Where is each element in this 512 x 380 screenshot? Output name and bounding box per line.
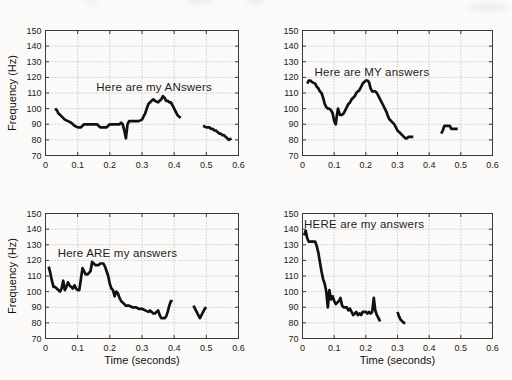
y-tick-label: 150 bbox=[283, 209, 298, 219]
y-tick-label: 120 bbox=[26, 255, 41, 265]
y-tick-label: 80 bbox=[288, 318, 298, 328]
x-axis-label: Time (seconds) bbox=[360, 354, 435, 366]
y-tick-label: 80 bbox=[31, 318, 41, 328]
y-tick-label: 110 bbox=[284, 88, 298, 98]
y-tick-label: 140 bbox=[283, 41, 298, 51]
figure-window: 00.10.20.30.40.50.6708090100110120130140… bbox=[0, 0, 512, 380]
x-tick-label: 0.6 bbox=[486, 160, 499, 170]
x-tick-label: 0 bbox=[300, 343, 305, 353]
y-tick-label: 70 bbox=[31, 334, 41, 344]
contour-segment-2 bbox=[203, 126, 231, 140]
y-tick-label: 100 bbox=[283, 287, 298, 297]
x-tick-label: 0.4 bbox=[168, 343, 181, 353]
subplot-top-right: 00.10.20.30.40.50.6708090100110120130140… bbox=[283, 26, 498, 170]
x-tick-label: 0.4 bbox=[423, 343, 436, 353]
y-tick-label: 90 bbox=[31, 302, 41, 312]
x-tick-label: 0.5 bbox=[200, 343, 213, 353]
y-axis-label: Frequency (Hz) bbox=[6, 238, 18, 314]
annotation-text: Here ARE my answers bbox=[58, 247, 178, 259]
y-tick-label: 140 bbox=[26, 41, 41, 51]
x-tick-label: 0.1 bbox=[71, 160, 84, 170]
annotation-text: Here are MY answers bbox=[315, 66, 430, 78]
annotation-text: HERE are my answers bbox=[304, 218, 424, 230]
x-tick-label: 0.5 bbox=[455, 343, 468, 353]
y-tick-label: 120 bbox=[283, 72, 298, 82]
subplot-bottom-right: 00.10.20.30.40.50.6708090100110120130140… bbox=[283, 209, 498, 366]
pitch-contour-figure: 00.10.20.30.40.50.6708090100110120130140… bbox=[0, 0, 512, 380]
x-tick-label: 0.5 bbox=[200, 160, 213, 170]
x-tick-label: 0.2 bbox=[360, 343, 373, 353]
x-tick-label: 0.3 bbox=[391, 160, 404, 170]
x-tick-label: 0.6 bbox=[232, 160, 245, 170]
y-tick-label: 140 bbox=[283, 224, 298, 234]
y-tick-label: 100 bbox=[283, 104, 298, 114]
y-tick-label: 70 bbox=[288, 334, 298, 344]
y-tick-label: 80 bbox=[31, 135, 41, 145]
x-tick-label: 0.6 bbox=[486, 343, 499, 353]
x-tick-label: 0 bbox=[43, 343, 48, 353]
y-tick-label: 140 bbox=[26, 224, 41, 234]
y-tick-label: 110 bbox=[284, 271, 298, 281]
y-tick-label: 110 bbox=[27, 88, 41, 98]
y-tick-label: 80 bbox=[288, 135, 298, 145]
x-tick-label: 0.1 bbox=[71, 343, 84, 353]
y-tick-label: 100 bbox=[26, 287, 41, 297]
y-tick-label: 90 bbox=[288, 119, 298, 129]
subplot-bottom-left: 00.10.20.30.40.50.6708090100110120130140… bbox=[6, 209, 245, 366]
y-tick-label: 70 bbox=[288, 151, 298, 161]
annotation-text: Here are my ANswers bbox=[96, 81, 212, 93]
contour-segment-2 bbox=[194, 306, 207, 319]
x-tick-label: 0.6 bbox=[232, 343, 245, 353]
y-tick-label: 130 bbox=[26, 57, 41, 67]
x-tick-label: 0.5 bbox=[455, 160, 468, 170]
y-tick-label: 150 bbox=[283, 26, 298, 36]
x-tick-label: 0.2 bbox=[104, 343, 117, 353]
x-tick-label: 0 bbox=[43, 160, 48, 170]
x-tick-label: 0.1 bbox=[328, 160, 341, 170]
x-tick-label: 0.4 bbox=[168, 160, 181, 170]
y-tick-label: 150 bbox=[26, 26, 41, 36]
y-axis-label: Frequency (Hz) bbox=[6, 55, 18, 131]
x-tick-label: 0.2 bbox=[104, 160, 117, 170]
subplot-top-left: 00.10.20.30.40.50.6708090100110120130140… bbox=[6, 26, 245, 170]
y-tick-label: 110 bbox=[27, 271, 41, 281]
y-tick-label: 120 bbox=[26, 72, 41, 82]
y-tick-label: 100 bbox=[26, 104, 41, 114]
contour-segment-1 bbox=[55, 96, 181, 138]
contour-segment-2 bbox=[398, 312, 406, 323]
contour-segment-1 bbox=[49, 262, 173, 318]
x-tick-label: 0.3 bbox=[136, 160, 149, 170]
y-tick-label: 130 bbox=[283, 240, 298, 250]
x-tick-label: 0.1 bbox=[328, 343, 341, 353]
x-tick-label: 0.3 bbox=[136, 343, 149, 353]
y-tick-label: 130 bbox=[26, 240, 41, 250]
y-tick-label: 90 bbox=[31, 119, 41, 129]
x-tick-label: 0 bbox=[300, 160, 305, 170]
x-axis-label: Time (seconds) bbox=[104, 354, 179, 366]
y-tick-label: 70 bbox=[31, 151, 41, 161]
x-tick-label: 0.2 bbox=[360, 160, 373, 170]
contour-segment-2 bbox=[441, 126, 458, 134]
x-tick-label: 0.4 bbox=[423, 160, 436, 170]
x-tick-label: 0.3 bbox=[391, 343, 404, 353]
y-tick-label: 90 bbox=[288, 302, 298, 312]
y-tick-label: 120 bbox=[283, 255, 298, 265]
y-tick-label: 150 bbox=[26, 209, 41, 219]
y-tick-label: 130 bbox=[283, 57, 298, 67]
